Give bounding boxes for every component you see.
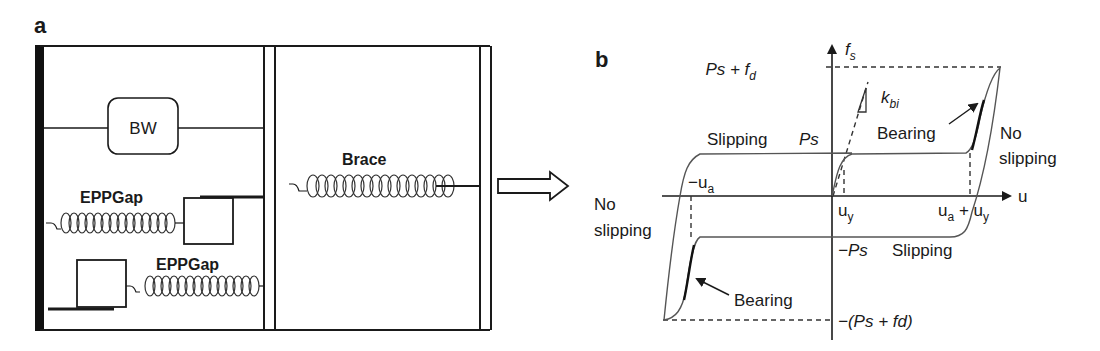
eppgap-lower: EPPGap <box>48 256 264 309</box>
bw-label: BW <box>129 119 156 138</box>
eppgap-lower-label: EPPGap <box>156 256 219 273</box>
tick-neg-ps-plus-fd: −(Ps + fd) <box>838 312 913 331</box>
annotation-slipping-bottom: Slipping <box>892 241 953 260</box>
spring-icon <box>307 175 454 197</box>
brace-label: Brace <box>342 151 387 168</box>
frame <box>35 45 491 331</box>
eppgap-upper: EPPGap <box>46 189 264 244</box>
annotation-bearing-top: Bearing <box>877 124 936 143</box>
panel-a-label: a <box>34 13 47 38</box>
bearing-top-arrow <box>949 104 977 124</box>
figure: a BW EPPGap <box>0 0 1100 351</box>
annotation-no-slipping-right-1: No <box>1000 124 1022 143</box>
eppgap-upper-label: EPPGap <box>80 189 143 206</box>
fixed-support <box>35 45 44 331</box>
panel-b-label: b <box>595 47 608 72</box>
stiffness-triangle-icon <box>858 88 866 112</box>
spring-icon <box>61 213 175 233</box>
transition-arrow-icon <box>498 172 568 200</box>
bearing-bottom-arrow <box>697 279 729 295</box>
tick-uy: uy <box>838 201 853 224</box>
panel-a: a BW EPPGap <box>34 13 491 331</box>
gap-block-upper <box>184 198 233 244</box>
tick-ps: Ps <box>799 130 819 149</box>
bearing-segment-bottom <box>684 245 694 300</box>
annotation-no-slipping-left-2: slipping <box>594 221 652 240</box>
annotation-slipping-top: Slipping <box>707 130 768 149</box>
brace-element: Brace <box>289 151 480 197</box>
tick-ps-plus-fd: Ps + fd <box>705 60 756 83</box>
spring-icon <box>145 276 259 296</box>
tick-neg-ps: −Ps <box>838 241 868 260</box>
annotation-no-slipping-right-2: slipping <box>999 149 1057 168</box>
tick-neg-ua: −ua <box>688 173 714 196</box>
tick-ua-plus-uy: ua + uy <box>938 201 989 224</box>
panel-b: b fs u kbi Ps + fd Ps −Ps −(Ps + fd) uy … <box>594 40 1057 340</box>
gap-block-lower <box>77 260 126 307</box>
bearing-segment-top <box>972 100 984 150</box>
y-axis-label: fs <box>845 40 856 63</box>
bw-element: BW <box>44 98 264 154</box>
annotation-no-slipping-left-1: No <box>594 195 616 214</box>
stiffness-label: kbi <box>881 88 899 111</box>
annotation-bearing-bottom: Bearing <box>734 291 793 310</box>
x-axis-label: u <box>1018 187 1027 206</box>
